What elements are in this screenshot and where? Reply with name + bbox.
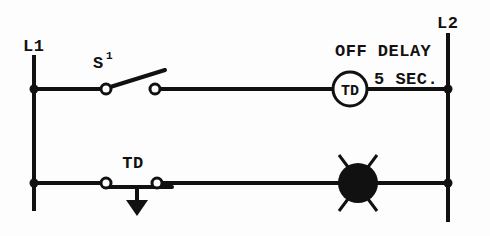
- rung-1-left-junction-dot: [30, 85, 39, 94]
- delay-time-annotation: 5 SEC.: [374, 70, 438, 89]
- switch-s1-right-terminal: [150, 84, 160, 94]
- switch-s1-superscript: 1: [106, 50, 113, 62]
- rung-2-left-junction-dot: [30, 179, 39, 188]
- timer-coil-label: TD: [341, 83, 359, 100]
- rung-2-right-junction-dot: [444, 179, 453, 188]
- right-rail-label: L2: [437, 14, 458, 33]
- timer-coil-td[interactable]: TD: [333, 72, 367, 106]
- ladder-diagram: L1 L2 S 1: [0, 0, 490, 236]
- switch-s1-contact-no[interactable]: [101, 70, 165, 94]
- contact-td-right-terminal: [152, 178, 162, 188]
- rung-1: S 1 TD OFF DELAY 5 SEC.: [30, 42, 453, 106]
- ladder-diagram-canvas: L1 L2 S 1: [0, 0, 490, 236]
- contact-td-left-terminal: [101, 178, 111, 188]
- lamp-ray-sw: [339, 199, 348, 211]
- lamp-ray-se: [368, 199, 377, 211]
- timing-arrow-down-icon: [126, 186, 148, 216]
- lamp-body: [338, 163, 378, 203]
- pilot-lamp[interactable]: [338, 155, 378, 211]
- contact-td-nc-timed[interactable]: [101, 178, 172, 216]
- switch-s1-label: S: [93, 54, 104, 73]
- left-rail-label: L1: [23, 37, 44, 56]
- switch-s1-left-terminal: [101, 84, 111, 94]
- rung-2: TD: [30, 154, 453, 216]
- lamp-ray-ne: [368, 155, 377, 167]
- off-delay-annotation: OFF DELAY: [335, 42, 432, 61]
- timing-arrow-head: [126, 200, 148, 216]
- rung-1-right-junction-dot: [444, 85, 453, 94]
- lamp-ray-nw: [339, 155, 348, 167]
- contact-td-label: TD: [122, 154, 143, 173]
